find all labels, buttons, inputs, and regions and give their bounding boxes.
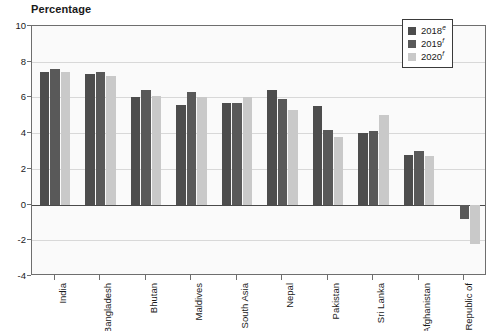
x-axis-tick-label: Pakistan: [331, 283, 341, 319]
y-axis-tick-label: 0: [2, 198, 26, 209]
legend-item: 2019f: [408, 37, 446, 50]
bar: [369, 131, 379, 204]
legend-label: 2019f: [421, 37, 444, 49]
bar: [197, 97, 207, 204]
x-axis-tick-mark: [463, 275, 464, 280]
x-axis-tick-mark: [236, 275, 237, 280]
x-axis-tick-label: India: [58, 283, 68, 304]
bar: [323, 130, 333, 205]
bar: [470, 205, 480, 244]
x-axis-tick-label: Iran,Islamic Republic of: [454, 283, 474, 331]
y-axis-tick-mark: [27, 204, 31, 205]
x-axis-tick-label: Maldives: [194, 283, 204, 321]
bar: [50, 69, 60, 205]
legend-swatch: [408, 40, 416, 48]
x-axis-tick-mark: [190, 275, 191, 280]
x-axis-tick-mark: [372, 275, 373, 280]
y-axis-tick-label: 10: [2, 20, 26, 31]
bar-group: [214, 26, 260, 274]
bar-group: [32, 26, 78, 274]
y-axis-tick-mark: [27, 239, 31, 240]
chart-container: Percentage 1086420-2-4 IndiaBangladeshBh…: [0, 0, 492, 331]
bar: [313, 106, 323, 204]
bar: [176, 105, 186, 205]
bar: [61, 72, 71, 204]
y-axis-tick-mark: [27, 61, 31, 62]
x-axis-tick-mark: [145, 275, 146, 280]
x-axis-tick-mark: [281, 275, 282, 280]
x-axis-tick-label: South Asia: [240, 283, 250, 328]
bar: [232, 103, 242, 205]
x-axis-tick-mark: [418, 275, 419, 280]
legend-label: 2020f: [421, 50, 444, 62]
bar: [288, 110, 298, 205]
y-axis-tick-mark: [27, 275, 31, 276]
x-axis-tick-label: Bangladesh: [103, 283, 113, 331]
bar-group: [123, 26, 169, 274]
bar: [460, 205, 470, 219]
x-axis-tick-label: Nepal: [285, 283, 295, 308]
x-axis-tick-mark: [54, 275, 55, 280]
legend-label: 2018e: [421, 24, 446, 36]
x-axis-tick-mark: [99, 275, 100, 280]
bar: [131, 97, 141, 204]
x-axis-tick-label: Bhutan: [149, 283, 159, 313]
bar: [96, 72, 106, 204]
bar: [278, 99, 288, 204]
y-axis-tick-mark: [27, 96, 31, 97]
legend: 2018e2019f2020f: [402, 19, 453, 68]
bar: [152, 96, 162, 205]
y-axis-tick-label: -4: [2, 270, 26, 281]
x-axis-tick-mark: [327, 275, 328, 280]
bar: [85, 74, 95, 204]
legend-item: 2018e: [408, 24, 446, 37]
y-axis-tick-label: 4: [2, 127, 26, 138]
bar-group: [260, 26, 306, 274]
bar-group: [351, 26, 397, 274]
bar-group: [78, 26, 124, 274]
legend-swatch: [408, 27, 416, 35]
y-axis-tick-label: -2: [2, 234, 26, 245]
y-axis-tick-label: 2: [2, 162, 26, 173]
bar: [404, 155, 414, 205]
bar: [243, 97, 253, 204]
page-title: Percentage: [31, 3, 91, 15]
y-axis-tick-mark: [27, 132, 31, 133]
bar: [334, 137, 344, 205]
bar: [267, 90, 277, 204]
bar: [141, 90, 151, 204]
bar: [40, 72, 50, 204]
x-axis-tick-label: Sri Lanka: [376, 283, 386, 323]
y-axis-tick-mark: [27, 168, 31, 169]
bar: [379, 115, 389, 204]
bar: [358, 133, 368, 204]
bar: [106, 76, 116, 205]
y-axis-tick-label: 8: [2, 55, 26, 66]
bar-group: [169, 26, 215, 274]
bar: [222, 103, 232, 205]
bar: [187, 92, 197, 205]
bar: [425, 156, 435, 204]
x-axis-tick-label: Afghanistan: [422, 283, 432, 331]
bar: [414, 151, 424, 205]
legend-swatch: [408, 53, 416, 61]
bar-group: [305, 26, 351, 274]
legend-item: 2020f: [408, 50, 446, 63]
y-axis-tick-mark: [27, 25, 31, 26]
y-axis-tick-label: 6: [2, 91, 26, 102]
